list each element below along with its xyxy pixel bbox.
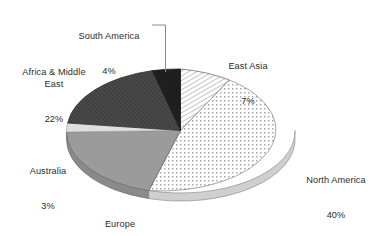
- slice-label-europe-name: Europe: [72, 219, 168, 231]
- slice-label-africa-middle-east-percent: 22%: [2, 114, 106, 126]
- slice-label-africa-middle-east-name: Africa & Middle East: [2, 67, 106, 90]
- slice-label-australia-name: Australia: [4, 166, 92, 178]
- slice-label-europe: Europe 24%: [72, 196, 168, 236]
- slice-label-east-asia-name: East Asia: [196, 61, 300, 73]
- slice-label-africa-middle-east: Africa & Middle East 22%: [2, 44, 106, 148]
- slice-label-north-america: North America 40%: [288, 152, 384, 236]
- pie-chart-figure: South America 4% Africa & Middle East 22…: [0, 0, 386, 236]
- slice-label-north-america-percent: 40%: [288, 210, 384, 222]
- slice-label-east-asia-percent: 7%: [196, 96, 300, 108]
- slice-label-south-america-name: South America: [55, 31, 163, 43]
- slice-label-north-america-name: North America: [288, 175, 384, 187]
- slice-label-east-asia: East Asia 7%: [196, 38, 300, 131]
